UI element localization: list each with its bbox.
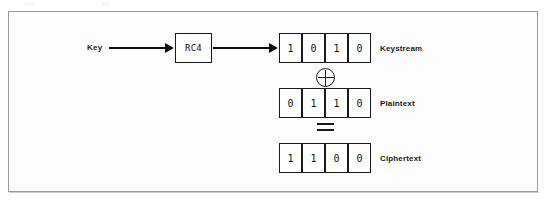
arrow-key-to-rc4 [109,43,175,53]
keystream-label: Keystream [380,43,422,54]
plaintext-label: Plaintext [380,98,415,109]
arrow-shaft [109,47,167,49]
ciphertext-label: Ciphertext [380,153,421,164]
bit-cell: 0 [302,33,325,63]
scan-artifact [24,2,34,6]
bit-cell: 1 [279,143,302,173]
rc4-box: RC4 [175,33,212,63]
equals-bar-top [317,123,334,125]
bit-cell: 1 [325,33,348,63]
bit-cell: 1 [325,88,348,118]
plaintext-bit-row: 0 1 1 0 [279,88,371,118]
bit-cell: 0 [348,33,371,63]
xor-bar-vertical [325,70,326,86]
bit-cell: 0 [325,143,348,173]
xor-icon [316,68,335,87]
arrow-shaft [213,47,271,49]
keystream-bit-row: 1 0 1 0 [279,33,371,63]
arrow-head [269,43,278,53]
bit-cell: 0 [348,88,371,118]
equals-bar-bottom [317,129,334,131]
bit-cell: 1 [302,143,325,173]
bit-cell: 0 [279,88,302,118]
arrow-head [165,43,174,53]
bit-cell: 0 [348,143,371,173]
equals-icon [317,122,334,135]
diagram-frame: Key RC4 1 0 1 0 Keystream 0 [8,11,538,192]
bit-cell: 1 [279,33,302,63]
key-label: Key [87,42,102,53]
arrow-rc4-to-keystream [213,43,279,53]
diagram-canvas: Key RC4 1 0 1 0 Keystream 0 [0,0,546,203]
ciphertext-bit-row: 1 1 0 0 [279,143,371,173]
frame-shadow [9,192,539,193]
bit-cell: 1 [302,88,325,118]
scan-artifact [101,2,109,6]
